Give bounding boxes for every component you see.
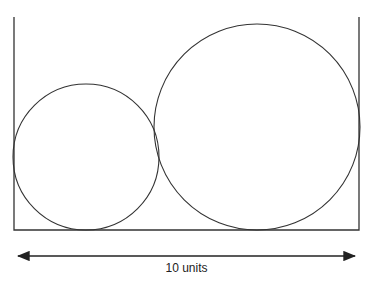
container-box [14, 17, 359, 230]
small-circle [13, 84, 159, 230]
dimension-label: 10 units [0, 261, 373, 275]
large-circle [154, 24, 360, 230]
diagram-canvas [0, 0, 373, 285]
